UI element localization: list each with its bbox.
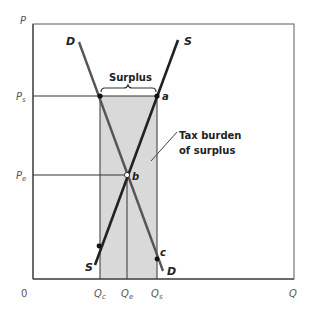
demand-bottom-label: D <box>167 265 176 278</box>
point-demand-at-ps <box>97 93 102 98</box>
point-c <box>155 257 160 262</box>
y-axis-label: P <box>20 15 27 26</box>
ps-label: Ps <box>16 91 26 104</box>
x-axis-label: Q <box>289 288 297 299</box>
point-c-label: c <box>160 247 166 258</box>
supply-bottom-label: S <box>85 261 93 274</box>
point-a-label: a <box>162 91 169 102</box>
surplus-diagram: P Q 0 Ps Pe Qc Qe Qs D D S S a b c Surpl… <box>0 0 312 309</box>
point-a <box>154 93 159 98</box>
tax-burden-label-line2: of surplus <box>179 145 235 156</box>
qe-label: Qe <box>121 288 133 301</box>
demand-top-label: D <box>66 35 75 48</box>
point-supply-at-qc <box>97 244 102 249</box>
qc-label: Qc <box>94 288 106 301</box>
origin-label: 0 <box>21 288 27 299</box>
point-b <box>124 172 129 177</box>
surplus-label: Surplus <box>109 72 152 83</box>
point-b-label: b <box>132 171 139 182</box>
qs-label: Qs <box>151 288 163 301</box>
surplus-brace <box>101 85 156 92</box>
supply-top-label: S <box>184 35 192 48</box>
tax-burden-label-line1: Tax burden <box>179 130 241 141</box>
plot-frame <box>33 24 294 279</box>
pe-label: Pe <box>16 170 26 183</box>
